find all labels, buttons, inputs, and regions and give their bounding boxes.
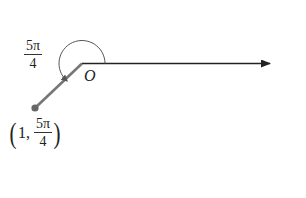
- angle-numerator: 5π: [24, 39, 42, 55]
- angle-label: 5π 4: [24, 36, 42, 71]
- close-paren: ): [54, 118, 61, 148]
- point-sep: ,: [26, 124, 30, 142]
- polar-point: [31, 104, 38, 111]
- point-r: 1: [18, 124, 26, 142]
- point-angle-numerator: 5π: [34, 117, 52, 133]
- origin-label: O: [84, 67, 96, 85]
- angle-arc: [59, 41, 105, 81]
- open-paren: (: [10, 118, 17, 148]
- point-label: ( 1 , 5π 4 ): [8, 117, 62, 149]
- point-angle-denominator: 4: [40, 133, 47, 149]
- angle-denominator: 4: [30, 55, 37, 71]
- polar-diagram: [0, 0, 306, 198]
